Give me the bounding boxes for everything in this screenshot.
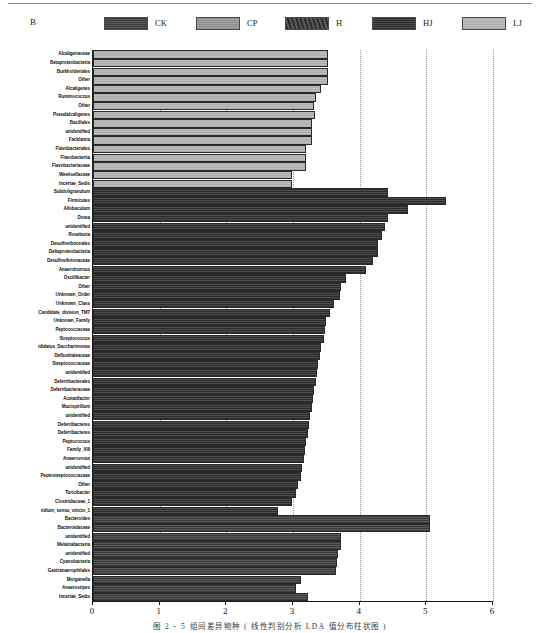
bar-hj[interactable] [93, 438, 306, 446]
bar-row: Bacteroides [93, 515, 493, 523]
bar-hj[interactable] [93, 188, 388, 196]
bar-row: Unknown_Order [93, 291, 493, 299]
bar-hj[interactable] [93, 446, 305, 454]
bar-hj[interactable] [93, 335, 324, 343]
bar-hj[interactable] [93, 472, 301, 480]
bar-hj[interactable] [93, 481, 298, 489]
bar-ck[interactable] [93, 524, 430, 532]
bar-lj[interactable] [93, 171, 292, 179]
bar-row: ridium_sensu_stricto_1 [93, 507, 493, 515]
bar-lj[interactable] [93, 119, 312, 127]
bar-hj[interactable] [93, 352, 320, 360]
bar-lj[interactable] [93, 136, 312, 144]
y-axis-tick-label: Subdoligranulum [54, 188, 90, 196]
bar-row: Gastranaerophilales [93, 567, 493, 575]
bar-hj[interactable] [93, 197, 446, 205]
bar-hj[interactable] [93, 489, 296, 497]
y-axis-tick-label: Gastranaerophilales [48, 567, 90, 575]
bar-lj[interactable] [93, 102, 314, 110]
bar-hj[interactable] [93, 360, 318, 368]
bar-hj[interactable] [93, 317, 326, 325]
y-axis-tick-label: Acetatifactor [63, 395, 90, 403]
bar-lj[interactable] [93, 154, 306, 162]
bar-hj[interactable] [93, 231, 382, 239]
bar-hj[interactable] [93, 455, 304, 463]
bar-hj[interactable] [93, 386, 314, 394]
bar-hj[interactable] [93, 274, 346, 282]
bar-row: Streptococcaceae [93, 360, 493, 368]
bar-hj[interactable] [93, 343, 321, 351]
bar-hj[interactable] [93, 421, 309, 429]
bar-row: Deferribacteres [93, 421, 493, 429]
bar-ck[interactable] [93, 593, 308, 601]
bar-row: Oscillibacter [93, 274, 493, 282]
bar-hj[interactable] [93, 429, 308, 437]
bar-lj[interactable] [93, 162, 306, 170]
y-axis-tick-label: Other [78, 481, 90, 489]
bar-hj[interactable] [93, 412, 310, 420]
bar-lj[interactable] [93, 68, 328, 76]
y-axis-tick-label: Streptococcaceae [52, 360, 90, 368]
bar-ck[interactable] [93, 567, 336, 575]
bar-lj[interactable] [93, 85, 321, 93]
bar-ck[interactable] [93, 533, 341, 541]
y-axis-tick-label: Deferribacteres [58, 429, 90, 437]
bar-row: Family_XIII [93, 446, 493, 454]
bar-hj[interactable] [93, 257, 373, 265]
bar-hj[interactable] [93, 240, 378, 248]
bar-row: Defluviitaleaceae [93, 352, 493, 360]
bar-hj[interactable] [93, 464, 302, 472]
bar-hj[interactable] [93, 326, 325, 334]
bar-hj[interactable] [93, 507, 278, 515]
y-axis-tick-label: Morganella [67, 576, 90, 584]
bar-hj[interactable] [93, 291, 340, 299]
bar-hj[interactable] [93, 205, 408, 213]
bar-ck[interactable] [93, 576, 301, 584]
bar-hj[interactable] [93, 223, 385, 231]
y-axis-tick-label: Deferribacterales [54, 378, 90, 386]
bar-row: Anaerotruncus [93, 266, 493, 274]
bar-lj[interactable] [93, 93, 316, 101]
bar-hj[interactable] [93, 300, 334, 308]
bar-hj[interactable] [93, 214, 388, 222]
y-axis-tick-label: unidentified [65, 412, 90, 420]
bar-row: Desulfovibrionaceae [93, 257, 493, 265]
y-axis-tick-label: Allobaculum [64, 205, 90, 213]
y-axis-tick-label: Turicibacter [65, 489, 90, 497]
bar-hj[interactable] [93, 248, 378, 256]
bar-ck[interactable] [93, 584, 296, 592]
y-axis-tick-label: Pseudalcaligenes [53, 111, 90, 119]
bar-lj[interactable] [93, 76, 328, 84]
y-axis-tick-label: Flavobacteriia [61, 154, 91, 162]
bar-hj[interactable] [93, 283, 341, 291]
bar-row: Turicibacter [93, 489, 493, 497]
x-axis-tick-label: 2 [223, 606, 228, 616]
bar-lj[interactable] [93, 145, 306, 153]
bar-hj[interactable] [93, 498, 292, 506]
bar-lj[interactable] [93, 180, 292, 188]
bar-lj[interactable] [93, 128, 312, 136]
bar-ck[interactable] [93, 541, 341, 549]
bar-lj[interactable] [93, 111, 315, 119]
bar-lj[interactable] [93, 59, 328, 67]
x-axis-tick [492, 601, 493, 605]
bar-ck[interactable] [93, 558, 337, 566]
bar-hj[interactable] [93, 403, 312, 411]
bar-lj[interactable] [93, 50, 328, 58]
bar-hj[interactable] [93, 378, 316, 386]
bar-hj[interactable] [93, 266, 366, 274]
lda-bar-chart: AlcaligenaceaeBetaproteobacteriaBurkhold… [0, 0, 540, 633]
bar-row: Incertae_Sedis [93, 180, 493, 188]
bar-ck[interactable] [93, 515, 430, 523]
bar-row: unidentified [93, 128, 493, 136]
bar-row: Anaerostipes [93, 584, 493, 592]
bar-row: unidentified [93, 464, 493, 472]
bar-hj[interactable] [93, 309, 330, 317]
bar-hj[interactable] [93, 369, 317, 377]
bar-ck[interactable] [93, 550, 338, 558]
x-axis-tick-label: 6 [490, 606, 495, 616]
bar-row: Other [93, 283, 493, 291]
y-axis-tick-label: Unknown_Order [56, 291, 90, 299]
x-axis-tick [359, 601, 360, 605]
bar-hj[interactable] [93, 395, 313, 403]
